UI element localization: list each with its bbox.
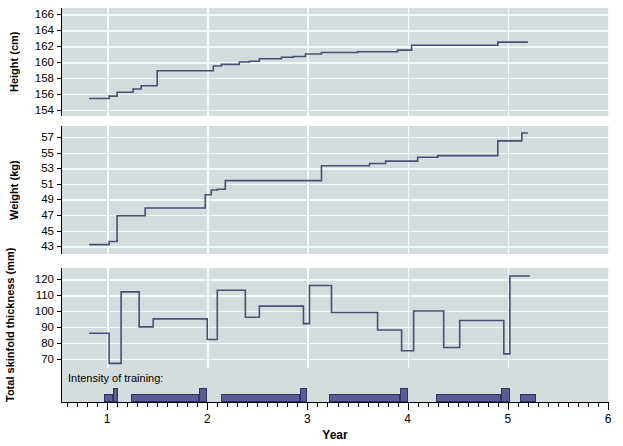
x-tick-minor <box>568 403 569 407</box>
x-tick-minor <box>338 403 339 407</box>
intensity-bar <box>329 394 399 402</box>
figure-root: 154156158160162164166Height (cm)43454749… <box>0 0 623 446</box>
x-tick-minor <box>448 403 449 407</box>
x-tick-minor <box>548 403 549 407</box>
x-tick-minor <box>428 403 429 407</box>
x-tick-minor <box>528 403 529 407</box>
x-tick-minor <box>468 403 469 407</box>
intensity-bar <box>221 394 300 402</box>
x-tick-minor <box>117 403 118 407</box>
x-tick-minor <box>478 403 479 407</box>
x-tick-minor <box>97 403 98 407</box>
intensity-bar <box>436 394 501 402</box>
x-tick-major <box>107 403 108 410</box>
x-tick-minor <box>398 403 399 407</box>
intensity-bar <box>113 388 118 402</box>
intensity-bar <box>104 394 113 402</box>
x-tick-minor <box>598 403 599 407</box>
x-tick-minor <box>217 403 218 407</box>
x-tick-minor <box>588 403 589 407</box>
intensity-bar <box>300 388 307 402</box>
x-tick-minor <box>297 403 298 407</box>
x-axis-line <box>61 402 609 403</box>
x-tick-minor <box>277 403 278 407</box>
x-tick-minor <box>137 403 138 407</box>
x-tick-minor <box>167 403 168 407</box>
x-tick-minor <box>438 403 439 407</box>
x-tick-minor <box>327 403 328 407</box>
intensity-of-training-label: Intensity of training: <box>68 372 163 384</box>
x-tick-label: 5 <box>504 412 511 426</box>
x-tick-minor <box>247 403 248 407</box>
intensity-strip-left-spine <box>61 368 62 402</box>
x-tick-label: 2 <box>204 412 211 426</box>
x-tick-label: 4 <box>404 412 411 426</box>
x-tick-minor <box>87 403 88 407</box>
x-tick-minor <box>538 403 539 407</box>
x-tick-minor <box>458 403 459 407</box>
x-tick-minor <box>358 403 359 407</box>
x-tick-minor <box>127 403 128 407</box>
x-tick-minor <box>388 403 389 407</box>
x-tick-minor <box>197 403 198 407</box>
x-tick-minor <box>378 403 379 407</box>
x-tick-minor <box>498 403 499 407</box>
x-tick-major <box>207 403 208 410</box>
x-tick-major <box>608 403 609 410</box>
x-tick-minor <box>157 403 158 407</box>
intensity-bar <box>400 388 408 402</box>
x-tick-major <box>408 403 409 410</box>
x-tick-minor <box>77 403 78 407</box>
x-tick-label: 6 <box>605 412 612 426</box>
intensity-bar <box>501 388 510 402</box>
x-tick-major <box>307 403 308 410</box>
x-tick-label: 3 <box>304 412 311 426</box>
x-tick-minor <box>257 403 258 407</box>
x-tick-minor <box>237 403 238 407</box>
axis-label-year: Year <box>322 428 347 442</box>
x-tick-minor <box>558 403 559 407</box>
x-tick-minor <box>147 403 148 407</box>
x-tick-minor <box>177 403 178 407</box>
x-tick-minor <box>488 403 489 407</box>
x-tick-major <box>508 403 509 410</box>
x-tick-minor <box>578 403 579 407</box>
intensity-bar <box>131 394 199 402</box>
x-tick-minor <box>67 403 68 407</box>
x-tick-minor <box>368 403 369 407</box>
x-tick-minor <box>317 403 318 407</box>
x-tick-minor <box>518 403 519 407</box>
x-tick-minor <box>267 403 268 407</box>
x-tick-label: 1 <box>104 412 111 426</box>
x-tick-minor <box>418 403 419 407</box>
x-tick-minor <box>287 403 288 407</box>
intensity-bar <box>520 394 536 402</box>
x-tick-minor <box>227 403 228 407</box>
x-tick-minor <box>348 403 349 407</box>
x-tick-minor <box>187 403 188 407</box>
intensity-bar <box>199 388 207 402</box>
